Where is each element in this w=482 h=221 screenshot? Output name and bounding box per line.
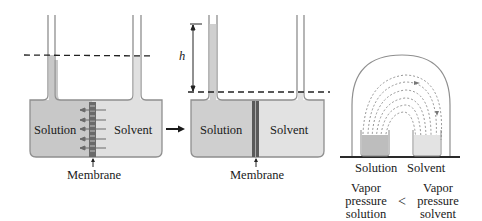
u-tube2-inner-outline — [217, 15, 297, 100]
u-tube-inner-outline — [55, 15, 133, 100]
vapor-pressure-solution: Vapor pressure solution — [341, 182, 391, 221]
arrow-right-icon — [166, 126, 185, 133]
panel1-membrane-label: Membrane — [67, 169, 121, 182]
right-column-liquid — [134, 55, 141, 100]
membrane-pointer-icon — [91, 158, 95, 167]
less-than-operator: < — [398, 195, 406, 208]
membrane-pointer-icon-2 — [254, 158, 258, 167]
left-column-liquid — [49, 55, 55, 100]
panel2-membrane-label: Membrane — [230, 169, 284, 182]
vp-solvent-line3: solvent — [413, 208, 463, 221]
panel-initial — [24, 15, 162, 167]
panel1-solution-label: Solution — [34, 124, 76, 137]
panel-bell-jar — [340, 55, 460, 157]
panel2-solvent-label: Solvent — [270, 124, 308, 137]
panel1-solvent-label: Solvent — [114, 124, 152, 137]
solution-beaker — [361, 130, 389, 156]
panel3-solution-label: Solution — [355, 162, 397, 175]
left-column-liquid-raised — [210, 24, 217, 100]
u-tube-right-fill — [92, 60, 162, 157]
diagram-canvas — [0, 0, 482, 221]
height-label: h — [179, 50, 185, 63]
panel-equilibrium — [188, 15, 330, 167]
solvent-beaker — [413, 130, 441, 156]
vp-solution-line3: solution — [341, 208, 391, 221]
panel3-solvent-label: Solvent — [407, 162, 445, 175]
panel2-solution-label: Solution — [200, 124, 242, 137]
height-dimension — [190, 24, 202, 91]
vapor-pressure-solvent: Vapor pressure solvent — [413, 182, 463, 221]
